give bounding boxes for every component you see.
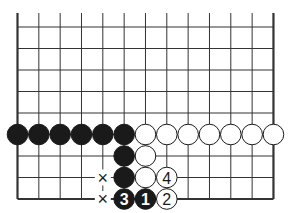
cross-mark-icon: × bbox=[98, 189, 109, 209]
move-number-label: 4 bbox=[162, 170, 171, 187]
board-marks: ×× bbox=[95, 168, 111, 210]
white-stone bbox=[135, 124, 156, 145]
black-stone: 3 bbox=[114, 189, 135, 210]
white-stone bbox=[157, 124, 178, 145]
white-stone: 2 bbox=[157, 189, 178, 210]
white-stone bbox=[263, 124, 284, 145]
black-stone bbox=[114, 146, 135, 167]
white-stone bbox=[135, 167, 156, 188]
black-stone bbox=[93, 124, 114, 145]
move-number-label: 2 bbox=[162, 191, 171, 208]
black-stone bbox=[7, 124, 28, 145]
black-stone bbox=[114, 124, 135, 145]
black-stone bbox=[71, 124, 92, 145]
white-stone bbox=[178, 124, 199, 145]
white-stone: 4 bbox=[157, 167, 178, 188]
black-stone bbox=[29, 124, 50, 145]
go-board-diagram: ×× 4312 bbox=[0, 0, 290, 213]
black-stone bbox=[114, 167, 135, 188]
cross-mark-icon: × bbox=[98, 168, 109, 188]
black-stone: 1 bbox=[135, 189, 156, 210]
move-number-label: 1 bbox=[141, 191, 150, 208]
black-stone bbox=[50, 124, 71, 145]
white-stone bbox=[135, 146, 156, 167]
board-stones: 4312 bbox=[7, 124, 284, 209]
move-number-label: 3 bbox=[120, 191, 129, 208]
white-stone bbox=[199, 124, 220, 145]
white-stone bbox=[242, 124, 263, 145]
white-stone bbox=[221, 124, 242, 145]
